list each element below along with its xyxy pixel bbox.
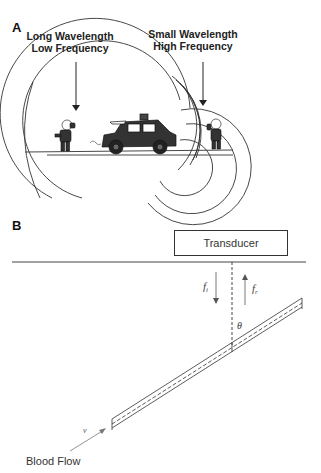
arrowhead-right-icon bbox=[199, 100, 207, 106]
arrowhead-left-icon bbox=[72, 105, 80, 111]
listener-left-icon bbox=[55, 120, 75, 151]
angle-theta-label: θ bbox=[237, 320, 242, 331]
panel-b-label: B bbox=[12, 218, 21, 233]
transducer-box: Transducer bbox=[174, 230, 288, 256]
reflected-frequency-label: fr bbox=[252, 282, 258, 296]
ground-line-top bbox=[25, 150, 233, 152]
incident-arrowhead-icon bbox=[213, 298, 219, 304]
fr-subscript: r bbox=[255, 288, 258, 296]
incident-frequency-label: fi bbox=[203, 280, 208, 294]
velocity-arrowhead-icon bbox=[99, 428, 106, 434]
blood-vessel bbox=[112, 298, 302, 430]
caption-arrows bbox=[76, 62, 203, 105]
fi-subscript: i bbox=[206, 286, 208, 294]
velocity-arrow bbox=[70, 430, 104, 451]
listener-right-icon bbox=[207, 119, 221, 149]
blood-flow-label: Blood Flow bbox=[26, 455, 80, 467]
reflected-arrowhead-icon bbox=[242, 274, 248, 280]
car-icon bbox=[90, 114, 176, 154]
velocity-label: v bbox=[83, 426, 87, 435]
transducer-label: Transducer bbox=[203, 237, 258, 249]
